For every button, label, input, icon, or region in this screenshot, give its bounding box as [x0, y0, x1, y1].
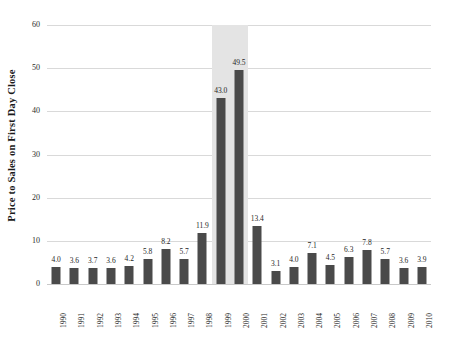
bar[interactable] [180, 259, 189, 284]
x-tick-label: 1994 [133, 288, 141, 328]
x-tick-label: 1991 [78, 288, 86, 328]
y-axis-tick-labels: 0102030405060 [0, 25, 44, 284]
x-tick-label: 2007 [371, 288, 379, 328]
bar[interactable] [399, 268, 408, 284]
x-tick-label: 2006 [353, 288, 361, 328]
bar-value-label: 3.6 [106, 257, 115, 265]
bar-slot: 4.2 [120, 25, 138, 284]
bar-slot: 5.7 [376, 25, 394, 284]
bar-value-label: 4.5 [326, 254, 335, 262]
bar[interactable] [417, 267, 426, 284]
bar-slot: 4.5 [321, 25, 339, 284]
bar-slot: 3.6 [394, 25, 412, 284]
bar-value-label: 5.7 [179, 248, 188, 256]
x-tick-label: 2008 [389, 288, 397, 328]
bar-value-label: 49.5 [232, 59, 245, 67]
bar-slot: 4.0 [285, 25, 303, 284]
bar[interactable] [234, 70, 243, 284]
bar-slot: 43.0 [212, 25, 230, 284]
bar-slot: 11.9 [193, 25, 211, 284]
bar-value-label: 3.6 [70, 257, 79, 265]
bar-value-label: 8.2 [161, 238, 170, 246]
x-tick-label: 2003 [298, 288, 306, 328]
bar[interactable] [253, 226, 262, 284]
x-tick-label: 2010 [426, 288, 434, 328]
bar-value-label: 5.8 [143, 248, 152, 256]
x-tick-label: 1990 [60, 288, 68, 328]
bar-value-label: 3.1 [271, 260, 280, 268]
bar[interactable] [161, 249, 170, 284]
bar-slot: 4.0 [47, 25, 65, 284]
y-tick-label: 50 [0, 64, 40, 72]
bar[interactable] [52, 267, 61, 284]
bar[interactable] [271, 271, 280, 284]
bar-slot: 7.1 [303, 25, 321, 284]
x-tick-label: 2009 [408, 288, 416, 328]
bar[interactable] [308, 253, 317, 284]
bar-slot: 3.7 [84, 25, 102, 284]
x-tick-label: 1997 [188, 288, 196, 328]
bar-slot: 3.6 [102, 25, 120, 284]
bar[interactable] [216, 98, 225, 284]
bar-value-label: 5.7 [381, 248, 390, 256]
bar-slot: 3.6 [65, 25, 83, 284]
x-axis-tick-labels: 1990199119921993199419951996199719981999… [47, 286, 431, 334]
bar[interactable] [125, 266, 134, 284]
x-tick-label: 1993 [115, 288, 123, 328]
bar-value-label: 6.3 [344, 246, 353, 254]
x-axis-line [47, 284, 431, 285]
bar[interactable] [198, 233, 207, 284]
x-tick-label: 2000 [243, 288, 251, 328]
y-tick-label: 20 [0, 194, 40, 202]
bar-value-label: 13.4 [251, 215, 264, 223]
y-tick-label: 40 [0, 107, 40, 115]
bar-slot: 5.8 [138, 25, 156, 284]
x-tick-label: 2002 [280, 288, 288, 328]
bar[interactable] [326, 265, 335, 284]
bar-slot: 3.1 [266, 25, 284, 284]
bar-value-label: 4.0 [51, 256, 60, 264]
bar-slot: 3.9 [413, 25, 431, 284]
bar-slot: 8.2 [157, 25, 175, 284]
x-tick-label: 2001 [261, 288, 269, 328]
bar-value-label: 3.6 [399, 257, 408, 265]
bar[interactable] [70, 268, 79, 284]
x-tick-label: 1998 [206, 288, 214, 328]
y-tick-label: 10 [0, 237, 40, 245]
bar[interactable] [88, 268, 97, 284]
bar[interactable] [289, 267, 298, 284]
bar-value-label: 3.9 [417, 256, 426, 264]
bar-chart: Price to Sales on First Day Close 010203… [0, 0, 449, 337]
x-tick-label: 1999 [225, 288, 233, 328]
x-tick-label: 1995 [152, 288, 160, 328]
bar[interactable] [344, 257, 353, 284]
bar-value-label: 4.2 [125, 255, 134, 263]
bar-slot: 5.7 [175, 25, 193, 284]
x-tick-label: 2005 [334, 288, 342, 328]
x-tick-label: 2004 [316, 288, 324, 328]
bar[interactable] [106, 268, 115, 284]
bar-slot: 49.5 [230, 25, 248, 284]
bar-value-label: 43.0 [214, 87, 227, 95]
x-tick-label: 1992 [97, 288, 105, 328]
plot-area: 4.03.63.73.64.25.88.25.711.943.049.513.4… [47, 25, 431, 284]
bar-value-label: 3.7 [88, 257, 97, 265]
y-tick-label: 30 [0, 151, 40, 159]
bar-slot: 13.4 [248, 25, 266, 284]
bar-value-label: 7.1 [307, 242, 316, 250]
x-tick-label: 1996 [170, 288, 178, 328]
y-tick-label: 0 [0, 280, 40, 288]
y-tick-label: 60 [0, 21, 40, 29]
bar[interactable] [381, 259, 390, 284]
bar-value-label: 11.9 [196, 222, 209, 230]
bar-value-label: 4.0 [289, 256, 298, 264]
bar-slot: 7.8 [358, 25, 376, 284]
bar[interactable] [143, 259, 152, 284]
bar[interactable] [362, 250, 371, 284]
bar-value-label: 7.8 [362, 239, 371, 247]
bar-slot: 6.3 [340, 25, 358, 284]
